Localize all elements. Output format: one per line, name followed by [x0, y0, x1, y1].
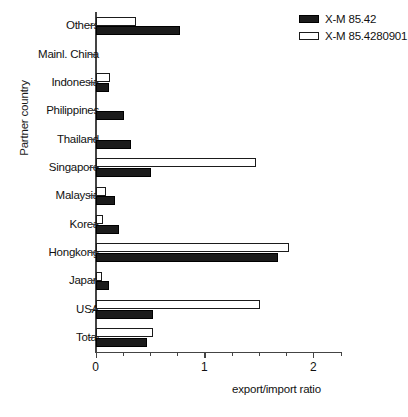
bar-series-filled [96, 338, 147, 347]
y-axis-tick [89, 309, 95, 310]
chart-category-row: Malaysia [0, 183, 408, 209]
y-axis-tick [89, 82, 95, 83]
chart-category-row: Korea [0, 212, 408, 238]
chart-legend: X-M 85.42X-M 85.4280901 [299, 9, 407, 43]
legend-swatch-filled [299, 15, 319, 23]
x-axis-minor-tick [341, 352, 342, 356]
y-axis-tick [89, 54, 95, 55]
chart-category-row: Mainl. China [0, 42, 408, 68]
y-axis-tick [89, 252, 95, 253]
export-import-ratio-bar-chart: Partner country OthersMainl. ChinaIndone… [0, 0, 408, 417]
chart-category-row: Thailand [0, 127, 408, 153]
bar-series-filled [96, 140, 132, 149]
bar-series-filled [96, 310, 154, 319]
bar-series-filled [96, 281, 109, 290]
x-axis-line [95, 352, 341, 353]
bar-series-open [96, 215, 104, 224]
chart-category-row: Hongkong [0, 240, 408, 266]
bar-series-open [96, 187, 107, 196]
x-axis-tick-label: 1 [201, 360, 208, 374]
x-axis-title: export/import ratio [232, 383, 321, 395]
bar-series-open [96, 243, 290, 252]
chart-category-row: Singapore [0, 155, 408, 181]
x-axis-minor-tick [177, 352, 178, 356]
y-axis-tick [89, 224, 95, 225]
x-axis-minor-tick [123, 352, 124, 356]
bar-series-open [96, 17, 136, 26]
x-axis-tick-label: 2 [310, 360, 317, 374]
y-axis-tick [89, 195, 95, 196]
bar-series-filled [96, 225, 120, 234]
bar-series-filled [96, 168, 152, 177]
bar-series-open [96, 300, 260, 309]
chart-category-row: Japan [0, 268, 408, 294]
chart-category-row: Philippines [0, 98, 408, 124]
bar-series-open [96, 272, 103, 281]
legend-label: X-M 85.42 [325, 13, 376, 25]
x-axis-tick-label: 0 [92, 360, 99, 374]
x-axis-major-tick [96, 352, 97, 358]
bar-series-filled [96, 83, 109, 92]
bar-series-filled [96, 111, 124, 120]
legend-item: X-M 85.42 [299, 9, 407, 26]
y-axis-tick [89, 110, 95, 111]
legend-swatch-open [299, 32, 319, 40]
y-axis-tick [89, 337, 95, 338]
bar-series-filled [96, 196, 116, 205]
chart-category-row: USA [0, 297, 408, 323]
x-axis-minor-tick [232, 352, 233, 356]
bar-series-filled [96, 26, 181, 35]
legend-label: X-M 85.4280901 [325, 30, 407, 42]
x-axis-minor-tick [259, 352, 260, 356]
chart-category-row: Indonesia [0, 70, 408, 96]
x-axis-major-tick [313, 352, 314, 358]
bar-series-open [96, 73, 110, 82]
bar-series-filled [96, 253, 279, 262]
legend-item: X-M 85.4280901 [299, 26, 407, 43]
bar-series-open [96, 328, 154, 337]
y-axis-tick [89, 280, 95, 281]
y-axis-tick [89, 167, 95, 168]
bar-series-open [96, 158, 256, 167]
x-axis-minor-tick [150, 352, 151, 356]
x-axis-major-tick [204, 352, 205, 358]
y-axis-tick [89, 25, 95, 26]
y-axis-tick [89, 139, 95, 140]
x-axis-minor-tick [286, 352, 287, 356]
chart-category-row: Total [0, 325, 408, 351]
